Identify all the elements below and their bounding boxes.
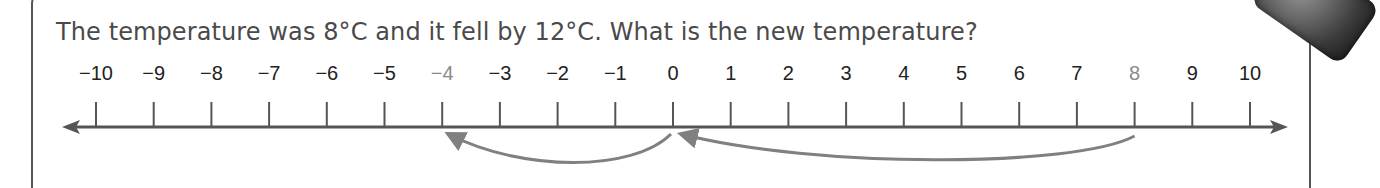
jump-arrow-8-to-0: [681, 134, 1135, 160]
number-line-ticks: [96, 102, 1250, 127]
jump-arrow-0-to-minus4: [448, 134, 671, 163]
